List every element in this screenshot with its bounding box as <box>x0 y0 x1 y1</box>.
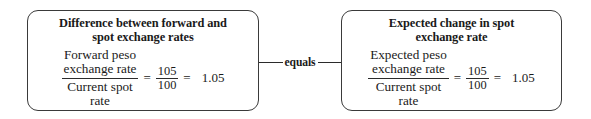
difference-box-title: Difference between forward and spot exch… <box>35 17 251 44</box>
expected-equals-sign-2: = <box>494 70 501 86</box>
difference-numeric-denominator: 100 <box>156 78 179 92</box>
difference-word-fraction-numerator: Forward peso exchange rate <box>62 48 139 77</box>
expected-word-fraction-denominator: Current spot rate <box>368 78 449 108</box>
expected-change-box-title: Expected change in spot exchange rate <box>349 17 555 44</box>
expected-numeric-numerator: 105 <box>466 65 489 78</box>
expected-word-fraction-numerator: Expected peso exchange rate <box>368 48 449 77</box>
difference-box-title-line2: spot exchange rates <box>92 30 193 44</box>
difference-equals-sign-2: = <box>183 70 190 86</box>
difference-numerator-line2: exchange rate <box>64 61 137 76</box>
equals-label: equals <box>283 56 318 69</box>
expected-denominator-line2: rate <box>399 93 419 108</box>
difference-box-title-line1: Difference between forward and <box>59 16 227 30</box>
connector-line-left <box>259 62 283 63</box>
difference-equals-sign-1: = <box>143 70 150 86</box>
difference-result-value: 1.05 <box>202 70 225 86</box>
difference-numeric-numerator: 105 <box>156 65 179 78</box>
expected-word-fraction: Expected peso exchange rate Current spot… <box>368 48 449 108</box>
expected-change-box: Expected change in spot exchange rate Ex… <box>341 10 562 111</box>
difference-word-fraction-denominator: Current spot rate <box>62 78 139 108</box>
diagram-canvas: Difference between forward and spot exch… <box>0 0 591 119</box>
expected-numerator-line1: Expected peso <box>370 47 447 62</box>
difference-denominator-line2: rate <box>90 93 110 108</box>
expected-numeric-denominator: 100 <box>466 78 489 92</box>
expected-change-box-title-line2: exchange rate <box>415 30 487 44</box>
difference-box: Difference between forward and spot exch… <box>27 10 259 111</box>
equals-connector: equals <box>259 54 341 70</box>
difference-word-fraction: Forward peso exchange rate Current spot … <box>62 48 139 108</box>
expected-result-value: 1.05 <box>512 70 535 86</box>
expected-change-box-equation: Expected peso exchange rate Current spot… <box>368 48 535 108</box>
difference-box-equation: Forward peso exchange rate Current spot … <box>62 48 225 108</box>
expected-equals-sign-1: = <box>454 70 461 86</box>
difference-denominator-line1: Current spot <box>67 79 133 94</box>
difference-numeric-fraction: 105 100 <box>156 65 179 91</box>
expected-denominator-line1: Current spot <box>376 79 442 94</box>
difference-numerator-line1: Forward peso <box>64 47 136 62</box>
expected-numeric-fraction: 105 100 <box>466 65 489 91</box>
connector-line-right <box>318 62 342 63</box>
expected-numerator-line2: exchange rate <box>372 61 445 76</box>
expected-change-box-title-line1: Expected change in spot <box>389 16 514 30</box>
